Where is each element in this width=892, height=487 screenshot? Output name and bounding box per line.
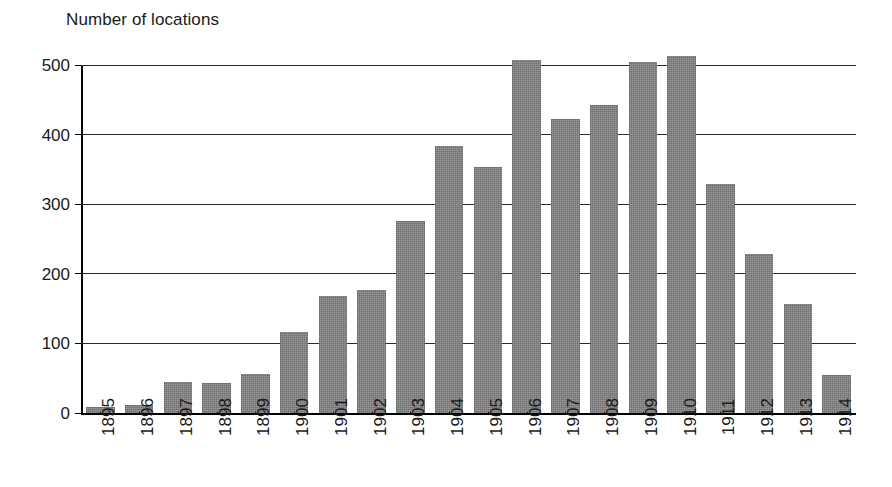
plot-area — [81, 65, 856, 413]
x-axis-tick-label: 1913 — [798, 398, 816, 436]
x-axis-tick-label: 1907 — [565, 398, 583, 436]
x-axis-tick-label: 1908 — [604, 398, 622, 436]
bar — [551, 119, 579, 413]
x-axis-tick: 1904 — [434, 415, 464, 483]
bar-series — [81, 65, 856, 413]
x-axis-tick: 1900 — [279, 415, 309, 483]
y-axis-tick-label: 500 — [42, 57, 70, 74]
x-axis-tick-label: 1896 — [139, 398, 157, 436]
x-axis-tick-label: 1900 — [294, 398, 312, 436]
y-axis-tick-label: 300 — [42, 196, 70, 213]
bar — [396, 221, 424, 413]
chart-figure: Number of locations 0100200300400500 189… — [0, 0, 892, 487]
bar — [474, 167, 502, 413]
x-axis-tick: 1897 — [163, 415, 193, 483]
bar — [745, 254, 773, 413]
x-axis-tick-label: 1897 — [178, 398, 196, 436]
bar — [629, 62, 657, 413]
x-axis-tick: 1909 — [628, 415, 658, 483]
y-axis-tick-label: 0 — [61, 405, 70, 422]
x-axis-tick: 1903 — [395, 415, 425, 483]
x-axis-tick-label: 1898 — [217, 398, 235, 436]
bar — [512, 60, 540, 413]
x-axis-tick-label: 1906 — [527, 398, 545, 436]
x-axis-tick-labels: 1895189618971898189919001901190219031904… — [81, 415, 856, 487]
chart-title: Number of locations — [66, 10, 219, 30]
x-axis-tick: 1901 — [318, 415, 348, 483]
bar — [706, 184, 734, 413]
x-axis-tick-label: 1911 — [720, 399, 738, 436]
x-axis-tick-label: 1910 — [682, 398, 700, 436]
x-axis-tick: 1912 — [744, 415, 774, 483]
x-axis-tick: 1910 — [667, 415, 697, 483]
x-axis-tick: 1913 — [783, 415, 813, 483]
x-axis-tick: 1899 — [240, 415, 270, 483]
y-axis-tick-labels: 0100200300400500 — [18, 65, 70, 413]
x-axis-tick-label: 1899 — [255, 398, 273, 436]
x-axis-tick: 1905 — [473, 415, 503, 483]
x-axis-tick-label: 1914 — [837, 398, 855, 436]
x-axis-tick: 1908 — [589, 415, 619, 483]
x-axis-tick-label: 1909 — [643, 398, 661, 436]
x-axis-tick: 1895 — [85, 415, 115, 483]
x-axis-tick: 1914 — [822, 415, 852, 483]
x-axis-tick: 1907 — [550, 415, 580, 483]
y-axis-tick-label: 200 — [42, 266, 70, 283]
x-axis-tick: 1898 — [202, 415, 232, 483]
x-axis-tick-label: 1901 — [333, 398, 351, 436]
bar — [357, 290, 385, 413]
bar — [784, 304, 812, 413]
x-axis-tick-label: 1912 — [759, 398, 777, 436]
bar — [435, 146, 463, 413]
x-axis-tick-label: 1902 — [372, 398, 390, 436]
x-axis-tick-label: 1895 — [100, 398, 118, 436]
x-axis-tick: 1911 — [705, 415, 735, 483]
x-axis-tick-label: 1903 — [410, 398, 428, 436]
bar — [590, 105, 618, 413]
x-axis-tick-label: 1904 — [449, 398, 467, 436]
y-axis-tick-label: 100 — [42, 335, 70, 352]
y-axis-tick-label: 400 — [42, 127, 70, 144]
bar — [667, 56, 695, 413]
x-axis-tick: 1896 — [124, 415, 154, 483]
x-axis-tick: 1906 — [512, 415, 542, 483]
x-axis-tick: 1902 — [357, 415, 387, 483]
bar — [319, 296, 347, 413]
x-axis-tick-label: 1905 — [488, 398, 506, 436]
